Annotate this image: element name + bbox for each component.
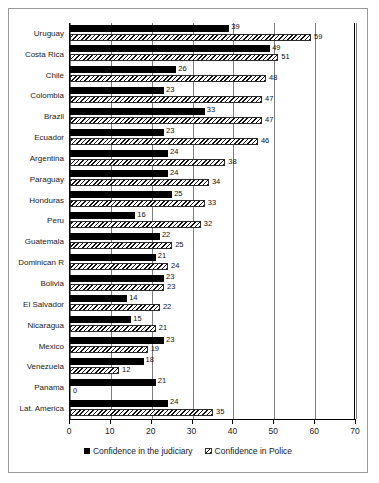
chart-row: 1521 bbox=[70, 315, 354, 336]
bar-judiciary bbox=[70, 400, 168, 407]
bar-judiciary bbox=[70, 295, 127, 302]
x-tick-label: 20 bbox=[146, 426, 155, 436]
bar-judiciary bbox=[70, 212, 135, 219]
bar-judiciary bbox=[70, 358, 144, 365]
chart-row: 2434 bbox=[70, 169, 354, 190]
bar-judiciary bbox=[70, 316, 131, 323]
category-label: Mexico bbox=[39, 336, 64, 357]
bar-value-police: 22 bbox=[163, 303, 171, 311]
bar-judiciary bbox=[70, 170, 168, 177]
chart-row: 1632 bbox=[70, 211, 354, 232]
chart-legend: Confidence in the judiciaryConfidence in… bbox=[9, 446, 367, 456]
bar-value-judiciary: 26 bbox=[178, 65, 186, 73]
bar-value-judiciary: 21 bbox=[158, 252, 166, 260]
category-label: Lat. America bbox=[20, 398, 64, 419]
bar-judiciary bbox=[70, 108, 205, 115]
bar-value-police: 21 bbox=[159, 324, 167, 332]
chart-row: 2323 bbox=[70, 273, 354, 294]
category-label: Panama bbox=[34, 377, 64, 398]
category-label: Brazil bbox=[44, 106, 64, 127]
bar-value-police: 34 bbox=[212, 178, 220, 186]
category-label: Costa Rica bbox=[25, 44, 64, 65]
bar-value-police: 33 bbox=[208, 199, 216, 207]
x-tick-label: 70 bbox=[350, 426, 359, 436]
chart-row: 3347 bbox=[70, 106, 354, 127]
chart-row: 2438 bbox=[70, 148, 354, 169]
category-label: Ecuador bbox=[34, 127, 64, 148]
category-label: Bolivia bbox=[40, 273, 64, 294]
bar-police bbox=[70, 117, 262, 124]
x-tick-label: 10 bbox=[105, 426, 114, 436]
legend-label: Confidence in the judiciary bbox=[93, 446, 193, 456]
bar-value-judiciary: 33 bbox=[207, 106, 215, 114]
bar-police bbox=[70, 159, 225, 166]
bar-police bbox=[70, 221, 201, 228]
bar-police bbox=[70, 138, 258, 145]
bar-police bbox=[70, 346, 148, 353]
bar-value-police: 35 bbox=[216, 408, 224, 416]
chart-row: 2648 bbox=[70, 65, 354, 86]
category-label: Nicaragua bbox=[28, 315, 64, 336]
category-label: Dominican R bbox=[18, 252, 64, 273]
bar-value-police: 46 bbox=[261, 137, 269, 145]
bar-police bbox=[70, 263, 168, 270]
chart-frame: UruguayCosta RicaChileColombiaBrazilEcua… bbox=[8, 8, 368, 473]
bar-police bbox=[70, 325, 156, 332]
bar-value-police: 59 bbox=[314, 33, 322, 41]
bar-judiciary bbox=[70, 275, 164, 282]
bar-police bbox=[70, 304, 160, 311]
chart-row: 2319 bbox=[70, 336, 354, 357]
x-tick bbox=[151, 419, 152, 424]
bar-value-judiciary: 39 bbox=[231, 23, 239, 31]
chart-row: 2435 bbox=[70, 398, 354, 419]
plot-area: 3959495126482347334723462438243425331632… bbox=[69, 23, 355, 419]
chart-row: 2533 bbox=[70, 190, 354, 211]
bar-judiciary bbox=[70, 150, 168, 157]
bar-value-police: 38 bbox=[228, 158, 236, 166]
x-tick-label: 50 bbox=[269, 426, 278, 436]
x-tick bbox=[192, 419, 193, 424]
x-axis-line bbox=[69, 419, 355, 420]
bar-value-police: 0 bbox=[73, 387, 77, 395]
bar-value-judiciary: 49 bbox=[272, 44, 280, 52]
x-tick-label: 40 bbox=[228, 426, 237, 436]
bar-police bbox=[70, 96, 262, 103]
chart-row: 1422 bbox=[70, 294, 354, 315]
bar-police bbox=[70, 200, 205, 207]
bar-value-judiciary: 24 bbox=[170, 148, 178, 156]
bar-judiciary bbox=[70, 66, 176, 73]
x-tick bbox=[355, 419, 356, 424]
gridline-70 bbox=[356, 23, 357, 419]
bar-police bbox=[70, 34, 311, 41]
chart-row: 2347 bbox=[70, 86, 354, 107]
bar-value-judiciary: 24 bbox=[170, 169, 178, 177]
x-tick-label: 0 bbox=[67, 426, 72, 436]
bar-judiciary bbox=[70, 379, 156, 386]
bar-value-police: 12 bbox=[122, 366, 130, 374]
x-tick bbox=[110, 419, 111, 424]
bar-value-judiciary: 23 bbox=[166, 336, 174, 344]
category-axis: UruguayCosta RicaChileColombiaBrazilEcua… bbox=[9, 23, 66, 419]
bar-judiciary bbox=[70, 254, 156, 261]
x-tick bbox=[232, 419, 233, 424]
chart-row: 1812 bbox=[70, 356, 354, 377]
bar-value-police: 47 bbox=[265, 116, 273, 124]
x-tick bbox=[69, 419, 70, 424]
x-tick-label: 60 bbox=[309, 426, 318, 436]
bar-value-judiciary: 14 bbox=[129, 294, 137, 302]
bar-value-police: 48 bbox=[269, 74, 277, 82]
bar-value-police: 24 bbox=[171, 262, 179, 270]
chart-row: 210 bbox=[70, 377, 354, 398]
bar-judiciary bbox=[70, 233, 160, 240]
chart-row: 3959 bbox=[70, 23, 354, 44]
bar-value-judiciary: 25 bbox=[174, 190, 182, 198]
bar-police bbox=[70, 179, 209, 186]
bar-value-police: 32 bbox=[204, 220, 212, 228]
bar-police bbox=[70, 409, 213, 416]
solid-square-icon bbox=[84, 448, 90, 454]
chart-row: 4951 bbox=[70, 44, 354, 65]
bar-value-judiciary: 16 bbox=[137, 211, 145, 219]
category-label: Uruguay bbox=[34, 23, 64, 44]
bar-police bbox=[70, 367, 119, 374]
chart-row: 2346 bbox=[70, 127, 354, 148]
